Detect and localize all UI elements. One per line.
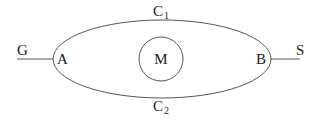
label-c2: C 2 <box>153 98 169 116</box>
label-c2-subscript: 2 <box>164 105 169 116</box>
label-c1: C 1 <box>153 3 169 21</box>
label-g: G <box>17 42 28 58</box>
label-m: M <box>154 51 167 67</box>
diagram-canvas: G A B S M C 1 C 2 <box>0 0 321 120</box>
label-s: S <box>296 42 304 58</box>
label-a: A <box>57 51 68 67</box>
label-c2-main: C <box>153 98 163 114</box>
label-b: B <box>256 51 266 67</box>
label-c1-main: C <box>153 3 163 19</box>
label-c1-subscript: 1 <box>164 10 169 21</box>
